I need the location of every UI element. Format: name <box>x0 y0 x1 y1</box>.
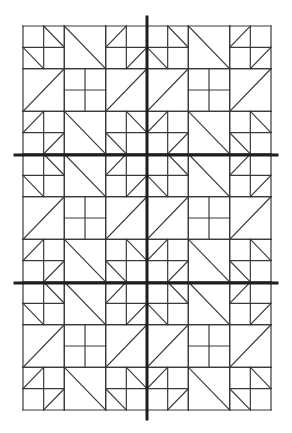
diagonal-line <box>230 282 251 303</box>
diagonal-line <box>106 282 127 303</box>
diagonal-line <box>147 325 188 368</box>
diagonal-line <box>23 47 44 68</box>
diagonal-line <box>188 239 229 282</box>
diagonal-line <box>106 389 127 410</box>
diagonal-line <box>64 111 105 154</box>
diagonal-line <box>250 47 271 68</box>
diagonal-line <box>168 26 189 47</box>
diagonal-line <box>188 282 229 325</box>
diagonal-line <box>23 367 44 388</box>
diagonal-line <box>147 47 168 68</box>
diagonal-line <box>168 282 189 303</box>
diagonal-line <box>106 325 147 368</box>
diagonal-line <box>64 239 105 282</box>
diagonal-line <box>168 389 189 410</box>
diagonal-line <box>126 303 147 324</box>
diagonal-line <box>126 239 147 260</box>
diagonal-line <box>230 261 251 282</box>
diagonal-line <box>106 154 127 175</box>
diagonal-line <box>44 261 65 282</box>
diagonal-line <box>230 154 251 175</box>
diagonal-line <box>126 47 147 68</box>
diagonal-line <box>106 26 127 47</box>
diagonal-line <box>188 154 229 197</box>
diagonal-line <box>188 111 229 154</box>
diagonal-line <box>147 111 168 132</box>
diagonal-line <box>64 154 105 197</box>
diagonal-line <box>44 133 65 154</box>
diagonal-line <box>188 26 229 69</box>
diagonal-line <box>64 367 105 410</box>
diagonal-line <box>23 175 44 196</box>
diagonal-line <box>126 175 147 196</box>
diagonal-line <box>147 303 168 324</box>
diagonal-line <box>106 261 127 282</box>
diagonal-line <box>230 325 271 368</box>
diagonal-line <box>168 261 189 282</box>
diagonal-line <box>44 26 65 47</box>
diagonal-line <box>23 239 44 260</box>
diagonal-line <box>23 197 64 240</box>
diagonal-line <box>106 69 147 112</box>
diagonal-line <box>147 239 168 260</box>
diagonal-line <box>126 111 147 132</box>
diagonal-line <box>147 367 168 388</box>
diagonal-line <box>147 197 188 240</box>
diagonal-line <box>126 367 147 388</box>
diagonal-line <box>23 303 44 324</box>
diagonal-line <box>147 175 168 196</box>
diagonal-line <box>106 133 127 154</box>
diagonal-line <box>44 389 65 410</box>
diagonal-line <box>250 111 271 132</box>
diagonal-line <box>168 154 189 175</box>
diagonal-line <box>23 111 44 132</box>
diagonal-line <box>168 133 189 154</box>
diagonal-line <box>250 303 271 324</box>
quilt-pattern-svg <box>0 0 292 433</box>
diagonal-line <box>230 389 251 410</box>
diagonal-line <box>147 69 188 112</box>
diagonal-line <box>230 197 271 240</box>
diagonal-line <box>188 367 229 410</box>
diagonal-line <box>44 282 65 303</box>
diagonal-line <box>64 26 105 69</box>
diagonal-line <box>230 69 271 112</box>
diagonal-line <box>23 69 64 112</box>
quilt-diagram <box>0 0 292 433</box>
diagonal-line <box>106 197 147 240</box>
diagonal-line <box>44 154 65 175</box>
diagonal-line <box>230 26 251 47</box>
diagonal-line <box>250 367 271 388</box>
diagonal-line <box>230 133 251 154</box>
diagonal-line <box>64 282 105 325</box>
diagonal-line <box>250 239 271 260</box>
diagonal-line <box>250 175 271 196</box>
diagonal-line <box>23 325 64 368</box>
